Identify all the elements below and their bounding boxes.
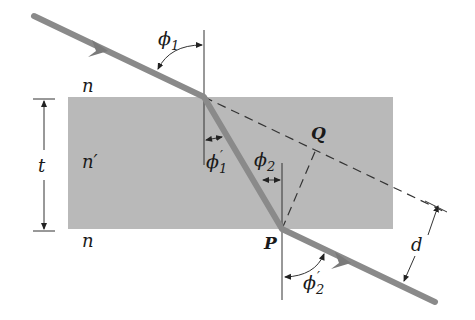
displacement-label: d <box>411 234 423 255</box>
medium-slab-label: n′ <box>82 151 98 172</box>
angle-phi2p-label: ϕ′2 <box>303 269 324 297</box>
thickness-label: t <box>38 155 46 176</box>
angle-phi1-label: ϕ1 <box>158 27 179 53</box>
displacement-arrow-lower <box>404 256 415 281</box>
refraction-diagram: t d n n′ n ϕ1 ϕ′1 ϕ2 ϕ′2 Q P <box>0 0 475 320</box>
point-P-label: P <box>263 233 278 253</box>
medium-top-label: n <box>82 75 94 96</box>
point-Q-label: Q <box>311 123 326 143</box>
glass-slab <box>68 97 393 229</box>
displacement-arrow-upper <box>428 206 438 235</box>
medium-bottom-label: n <box>82 230 94 251</box>
